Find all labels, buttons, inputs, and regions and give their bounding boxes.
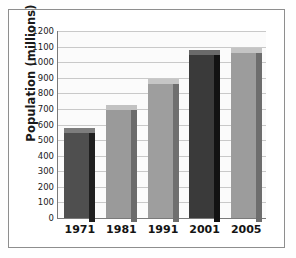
y-axis-tick-label: 0 [49, 213, 54, 223]
y-axis-tick-label: 900 [38, 73, 54, 83]
y-axis-title: Population (millions) [24, 0, 38, 148]
y-axis-tick-label: 800 [38, 88, 54, 98]
x-axis-tick-label: 2005 [231, 223, 262, 236]
chart-screenshot: Population (millions) 010020030040050060… [0, 0, 296, 258]
y-axis-tick-label: 700 [38, 104, 54, 114]
y-axis-tick-label: 300 [38, 166, 54, 176]
y-axis-tick-label: 200 [38, 182, 54, 192]
bar-chart: Population (millions) 010020030040050060… [0, 0, 296, 258]
y-axis-tick-label: 500 [38, 135, 54, 145]
y-axis-tick-label: 1100 [32, 42, 54, 52]
x-axis-tick-label: 1981 [106, 223, 137, 236]
plot-area: 0100200300400500600700800900100011001200… [57, 31, 266, 219]
x-axis-ticks: 19711981199120012005 [58, 31, 266, 218]
y-axis-tick-label: 1000 [32, 57, 54, 67]
y-axis-tick-label: 1200 [32, 26, 54, 36]
y-axis-tick-label: 400 [38, 151, 54, 161]
x-axis-tick-label: 1971 [64, 223, 95, 236]
y-axis-tick-label: 100 [38, 197, 54, 207]
y-axis-tick-label: 600 [38, 120, 54, 130]
x-axis-tick-label: 2001 [189, 223, 220, 236]
x-axis-tick-label: 1991 [148, 223, 179, 236]
